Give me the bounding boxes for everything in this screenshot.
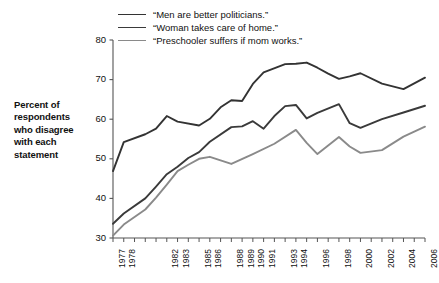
legend-label-men: “Men are better politicians.” — [153, 8, 268, 21]
legend-swatch-men — [118, 14, 146, 15]
x-tick-label-1985: 1985 — [203, 249, 213, 268]
y-axis-description: Percent of respondents who disagree with… — [14, 99, 94, 161]
x-tick-label-1996: 1996 — [321, 249, 331, 268]
x-tick-label-1978: 1978 — [127, 249, 137, 268]
x-tick-label-1986: 1986 — [213, 249, 223, 268]
chart-legend: “Men are better politicians.” “Woman tak… — [118, 8, 418, 47]
x-tick-label-2000: 2000 — [364, 249, 374, 268]
x-tick-label-1988: 1988 — [235, 249, 245, 268]
y-tick-label-60: 60 — [88, 113, 106, 124]
legend-swatch-woman — [118, 27, 146, 28]
y-tick-label-70: 70 — [88, 73, 106, 84]
x-tick-label-1977: 1977 — [117, 249, 127, 268]
x-tick-label-2006: 2006 — [429, 249, 439, 268]
legend-swatch-preschooler — [118, 40, 146, 41]
x-tick-label-1982: 1982 — [170, 249, 180, 268]
x-tick-label-1990: 1990 — [256, 249, 266, 268]
series-line-men — [113, 63, 425, 172]
x-tick-label-2004: 2004 — [407, 249, 417, 268]
legend-item-woman: “Woman takes care of home.” — [118, 21, 418, 34]
x-tick-label-1989: 1989 — [246, 249, 256, 268]
x-tick-label-1998: 1998 — [343, 249, 353, 268]
y-tick-label-80: 80 — [88, 34, 106, 45]
legend-label-preschooler: “Preschooler suffers if mom works.” — [153, 34, 302, 47]
x-tick-label-1991: 1991 — [267, 249, 277, 268]
y-tick-label-30: 30 — [88, 232, 106, 243]
x-tick-label-1994: 1994 — [299, 249, 309, 268]
legend-label-woman: “Woman takes care of home.” — [153, 21, 278, 34]
y-axis-description-line-1: Percent of — [14, 99, 94, 111]
series-line-woman — [113, 104, 425, 224]
y-tick-label-40: 40 — [88, 192, 106, 203]
y-axis-description-line-4: with each — [14, 136, 94, 148]
y-axis-description-line-5: statement — [14, 149, 94, 161]
y-tick-label-50: 50 — [88, 152, 106, 163]
x-tick-label-2002: 2002 — [386, 249, 396, 268]
x-tick-label-1993: 1993 — [289, 249, 299, 268]
y-axis-description-line-3: who disagree — [14, 124, 94, 136]
y-axis-description-line-2: respondents — [14, 111, 94, 123]
legend-item-preschooler: “Preschooler suffers if mom works.” — [118, 34, 418, 47]
legend-item-men: “Men are better politicians.” — [118, 8, 418, 21]
x-tick-label-1983: 1983 — [181, 249, 191, 268]
